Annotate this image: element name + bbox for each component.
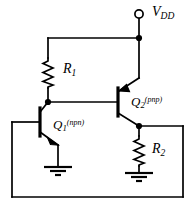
transistor-q2-label: Q2(pnp) [131, 95, 162, 110]
circuit-schematic [0, 0, 192, 211]
junction-dot-q1-collector [45, 99, 51, 105]
ground-symbol-right-icon [125, 173, 153, 181]
q1-emitter-arrow-icon [48, 138, 59, 146]
resistor-r1-label: R1 [63, 62, 76, 78]
resistor-r1-body [43, 58, 53, 88]
figure-canvas: VDD R1 R2 Q1(npn) Q2(pnp) [0, 0, 192, 211]
transistor-q1-label: Q1(npn) [53, 118, 84, 133]
wire-q2-collector-lead [118, 113, 139, 126]
ground-symbol-left-icon [44, 167, 72, 175]
vdd-terminal-icon [135, 10, 143, 18]
resistor-r2-label: R2 [152, 142, 165, 158]
junction-dot-q2-collector [136, 123, 142, 129]
supply-rail-label: VDD [152, 5, 174, 21]
resistor-r2-body [134, 136, 144, 166]
junction-dot-vdd [136, 35, 142, 41]
